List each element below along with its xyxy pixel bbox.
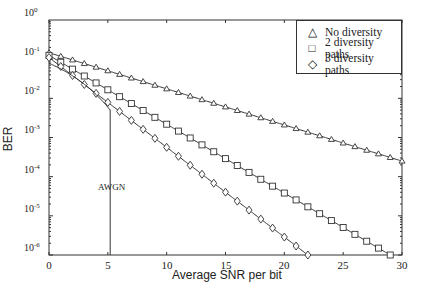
ytick-5: 10-5 (24, 202, 40, 214)
xtick-5: 5 (105, 259, 111, 271)
x-axis-label: Average SNR per bit (172, 268, 282, 282)
series-line-3 (49, 63, 110, 255)
diamond-marker-icon: ◇ (305, 57, 319, 71)
ytick-2: 10-2 (24, 84, 40, 96)
square-marker-icon: □ (305, 42, 319, 54)
ytick-6: 10-6 (24, 241, 40, 253)
awgn-annotation: AWGN (98, 182, 125, 192)
triangle-marker-icon: △ (305, 25, 319, 39)
legend: △ No diversity □ 2 diversity paths ◇ 3 d… (296, 20, 402, 74)
ytick-3: 10-3 (24, 123, 40, 135)
legend-item-3-paths: ◇ 3 diversity paths (305, 57, 401, 71)
xtick-30: 30 (397, 259, 408, 271)
ytick-1: 10-1 (24, 45, 40, 57)
y-axis-label: BER (1, 127, 15, 152)
legend-label: 3 diversity paths (325, 52, 401, 76)
xtick-0: 0 (46, 259, 52, 271)
xtick-25: 25 (338, 259, 349, 271)
xtick-10: 10 (162, 259, 173, 271)
series-line-1 (49, 55, 389, 254)
ytick-4: 10-4 (24, 163, 40, 175)
ytick-0: 100 (24, 6, 38, 18)
